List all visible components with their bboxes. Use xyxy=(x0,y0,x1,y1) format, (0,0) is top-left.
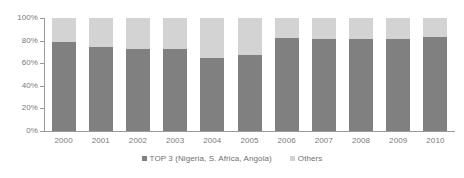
y-axis-tick xyxy=(40,86,44,87)
x-axis-tick-label: 2001 xyxy=(81,136,121,146)
bar-stack[interactable] xyxy=(275,18,299,131)
bar-stack[interactable] xyxy=(386,18,410,131)
bar-segment-others[interactable] xyxy=(163,18,187,49)
x-axis-tick-label: 2005 xyxy=(230,136,270,146)
bar-segment-top3[interactable] xyxy=(52,42,76,131)
y-axis-tick-label: 0% xyxy=(0,127,38,135)
legend-item-others[interactable]: Others xyxy=(290,154,323,163)
bar-segment-top3[interactable] xyxy=(349,39,373,131)
bar-stack[interactable] xyxy=(312,18,336,131)
y-axis-tick xyxy=(40,63,44,64)
bar-segment-others[interactable] xyxy=(126,18,150,49)
legend-swatch-top3 xyxy=(142,156,147,161)
bar-segment-others[interactable] xyxy=(200,18,224,58)
bar-segment-others[interactable] xyxy=(349,18,373,39)
bar-segment-top3[interactable] xyxy=(423,37,447,131)
bar-stack[interactable] xyxy=(238,18,262,131)
bar-segment-top3[interactable] xyxy=(238,55,262,131)
bar-stack[interactable] xyxy=(126,18,150,131)
bars-layer xyxy=(45,18,454,131)
bar-segment-top3[interactable] xyxy=(89,47,113,131)
bar-segment-others[interactable] xyxy=(52,18,76,42)
bar-stack[interactable] xyxy=(349,18,373,131)
x-axis-tick-label: 2000 xyxy=(44,136,84,146)
bar-segment-top3[interactable] xyxy=(126,49,150,131)
legend-item-top3[interactable]: TOP 3 (Nigeria, S. Africa, Angola) xyxy=(142,154,272,163)
y-axis-tick-label: 80% xyxy=(0,37,38,45)
bar-stack[interactable] xyxy=(423,18,447,131)
x-axis-tick-label: 2003 xyxy=(155,136,195,146)
bar-segment-others[interactable] xyxy=(386,18,410,39)
x-axis-line xyxy=(44,131,455,132)
bar-stack[interactable] xyxy=(163,18,187,131)
x-axis-labels: 2000200120022003200420052006200720082009… xyxy=(45,136,454,148)
y-axis-tick xyxy=(40,131,44,132)
x-axis-tick-label: 2006 xyxy=(267,136,307,146)
bar-segment-others[interactable] xyxy=(89,18,113,47)
bar-stack[interactable] xyxy=(200,18,224,131)
bar-stack[interactable] xyxy=(52,18,76,131)
y-axis-tick-label: 40% xyxy=(0,82,38,90)
x-axis-tick-label: 2008 xyxy=(341,136,381,146)
y-axis-tick xyxy=(40,18,44,19)
x-axis-tick-label: 2009 xyxy=(378,136,418,146)
bar-segment-others[interactable] xyxy=(238,18,262,55)
x-axis-tick-label: 2007 xyxy=(304,136,344,146)
y-axis-tick-label: 60% xyxy=(0,59,38,67)
bar-segment-top3[interactable] xyxy=(312,39,336,131)
bar-segment-top3[interactable] xyxy=(163,49,187,131)
legend-swatch-others xyxy=(290,156,295,161)
y-axis-tick-label: 100% xyxy=(0,14,38,22)
bar-segment-top3[interactable] xyxy=(386,39,410,131)
bar-segment-others[interactable] xyxy=(423,18,447,37)
bar-stack[interactable] xyxy=(89,18,113,131)
bar-segment-top3[interactable] xyxy=(275,38,299,131)
y-axis-tick xyxy=(40,108,44,109)
bar-segment-others[interactable] xyxy=(275,18,299,38)
chart-legend: TOP 3 (Nigeria, S. Africa, Angola) Other… xyxy=(0,154,464,163)
bar-segment-others[interactable] xyxy=(312,18,336,39)
legend-label-others: Others xyxy=(298,154,323,163)
legend-label-top3: TOP 3 (Nigeria, S. Africa, Angola) xyxy=(150,154,272,163)
y-axis-tick xyxy=(40,41,44,42)
x-axis-tick-label: 2002 xyxy=(118,136,158,146)
x-axis-tick-label: 2010 xyxy=(415,136,455,146)
x-axis-tick-label: 2004 xyxy=(192,136,232,146)
stacked-bar-chart: 0%20%40%60%80%100% 200020012002200320042… xyxy=(0,0,464,178)
y-axis-tick-label: 20% xyxy=(0,104,38,112)
bar-segment-top3[interactable] xyxy=(200,58,224,131)
